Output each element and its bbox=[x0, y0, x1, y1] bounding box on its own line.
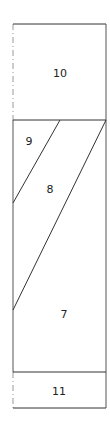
diagram-lines bbox=[0, 0, 110, 435]
region-label-7: 7 bbox=[61, 309, 68, 320]
region-label-8: 8 bbox=[47, 184, 54, 195]
region-label-11: 11 bbox=[52, 386, 66, 397]
diagonal-2 bbox=[13, 120, 106, 310]
region-label-10: 10 bbox=[53, 68, 67, 79]
region-label-9: 9 bbox=[26, 136, 33, 147]
panel-diagram: 10 9 8 7 11 bbox=[0, 0, 110, 435]
